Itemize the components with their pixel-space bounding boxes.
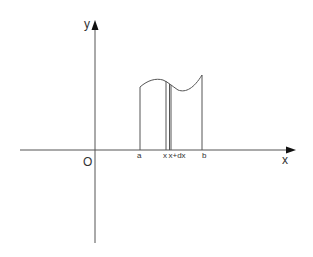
point-x-label: x bbox=[163, 151, 167, 160]
y-axis-arrow-icon bbox=[92, 20, 99, 30]
point-b-label: b bbox=[202, 151, 207, 160]
point-x-dx-label: x+dx bbox=[169, 151, 186, 160]
integral-diagram: y x O a x x+dx b bbox=[0, 0, 313, 257]
x-axis-label: x bbox=[282, 153, 288, 167]
y-axis-label: y bbox=[84, 17, 90, 31]
origin-label: O bbox=[83, 155, 92, 169]
point-a-label: a bbox=[137, 151, 142, 160]
